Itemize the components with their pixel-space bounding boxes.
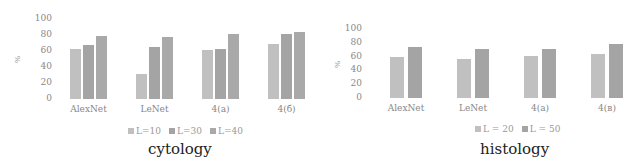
- y-tick-label: 20: [338, 78, 362, 88]
- legend-swatch-icon: [475, 126, 481, 132]
- bar: [524, 56, 538, 98]
- legend-label: L=40: [218, 126, 243, 136]
- bar: [294, 32, 305, 99]
- y-tick-label: 40: [28, 61, 52, 71]
- legend-item: L = 50: [522, 124, 561, 134]
- legend-swatch-icon: [210, 128, 216, 134]
- bar: [136, 74, 147, 99]
- y-tick-label: 20: [28, 77, 52, 87]
- legend-swatch-icon: [128, 128, 134, 134]
- plot-area: [380, 29, 640, 98]
- bar: [162, 37, 173, 99]
- legend-item: L = 20: [475, 124, 514, 134]
- legend: L=10L=30L=40: [128, 126, 251, 136]
- y-tick-label: 0: [28, 93, 52, 103]
- bar: [96, 36, 107, 99]
- bar: [457, 59, 471, 98]
- bar: [281, 34, 292, 99]
- bar: [609, 44, 623, 98]
- chart-caption: histology: [480, 140, 549, 158]
- bar: [202, 50, 213, 99]
- bar: [215, 49, 226, 99]
- y-axis-label: %: [13, 56, 22, 64]
- bar: [83, 45, 94, 99]
- cytology-chart: 020406080100%AlexNetLeNet4(a)4(б)L=10L=3…: [0, 0, 323, 167]
- x-tick-label: LeNet: [130, 104, 180, 114]
- bar: [228, 34, 239, 99]
- legend-label: L = 20: [483, 124, 514, 134]
- bar: [408, 47, 422, 98]
- bar: [475, 49, 489, 98]
- legend-item: L=30: [169, 126, 202, 136]
- x-tick-label: AlexNet: [64, 104, 114, 114]
- y-tick-label: 60: [338, 51, 362, 61]
- x-tick-label: 4(б): [262, 104, 312, 114]
- y-tick-label: 80: [338, 37, 362, 47]
- plot-area: [60, 19, 320, 99]
- x-tick-label: 4(a): [196, 104, 246, 114]
- legend-label: L = 50: [530, 124, 561, 134]
- x-tick-label: LeNet: [448, 103, 498, 113]
- legend-swatch-icon: [169, 128, 175, 134]
- y-tick-label: 0: [338, 92, 362, 102]
- legend: L = 20L = 50: [475, 124, 568, 134]
- bar: [149, 47, 160, 99]
- bar: [268, 44, 279, 99]
- bar: [591, 54, 605, 98]
- bar: [70, 49, 81, 99]
- legend-item: L=10: [128, 126, 161, 136]
- x-tick-label: AlexNet: [381, 103, 431, 113]
- y-tick-label: 60: [28, 45, 52, 55]
- chart-caption: cytology: [148, 140, 212, 158]
- legend-item: L=40: [210, 126, 243, 136]
- y-tick-label: 100: [28, 13, 52, 23]
- legend-label: L=30: [177, 126, 202, 136]
- legend-swatch-icon: [522, 126, 528, 132]
- y-tick-label: 80: [28, 29, 52, 39]
- x-tick-label: 4(в): [582, 103, 632, 113]
- bar: [390, 57, 404, 98]
- bar: [542, 49, 556, 98]
- legend-label: L=10: [136, 126, 161, 136]
- y-axis-label: %: [333, 61, 342, 69]
- x-tick-label: 4(a): [515, 103, 565, 113]
- y-tick-label: 100: [338, 23, 362, 33]
- histology-chart: 020406080100%AlexNetLeNet4(a)4(в)L = 20L…: [320, 0, 643, 167]
